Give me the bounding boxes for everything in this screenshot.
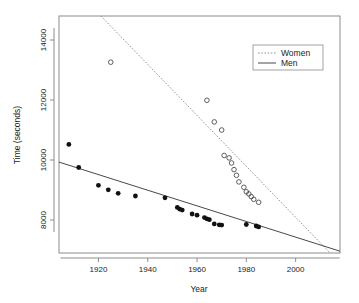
data-point-men (244, 222, 249, 227)
data-point-men (256, 225, 261, 230)
x-tick-label: 1960 (188, 265, 206, 274)
x-tick-label: 1980 (237, 265, 255, 274)
data-point-men (133, 194, 138, 199)
chart-canvas: 8000100001200014000 19201940196019802000… (0, 0, 359, 303)
y-tick-label: 8000 (39, 211, 48, 229)
chart-legend[interactable]: Women Men (253, 45, 323, 70)
data-point-men (212, 222, 217, 227)
data-point-men (219, 223, 224, 228)
x-tick-label: 2000 (287, 265, 305, 274)
data-point-men (207, 217, 212, 222)
data-point-men (163, 195, 168, 200)
y-tick-label: 12000 (39, 88, 48, 111)
data-point-men (116, 191, 121, 196)
data-point-men (96, 183, 101, 188)
x-axis-title: Year (190, 284, 207, 294)
x-tick-label: 1920 (90, 265, 108, 274)
data-point-men (180, 208, 185, 213)
data-point-men (106, 187, 111, 192)
x-tick-label: 1940 (139, 265, 157, 274)
data-point-men (195, 213, 200, 218)
data-point-men (190, 212, 195, 217)
y-tick-label: 14000 (39, 28, 48, 51)
y-tick-label: 10000 (39, 148, 48, 171)
data-point-men (66, 142, 71, 147)
legend-label-women: Women (281, 48, 310, 58)
scatter-plot-figure: 8000100001200014000 19201940196019802000… (0, 0, 359, 303)
y-axis-title: Time (seconds) (12, 106, 22, 164)
data-point-men (76, 165, 81, 170)
legend-label-men: Men (281, 58, 298, 68)
